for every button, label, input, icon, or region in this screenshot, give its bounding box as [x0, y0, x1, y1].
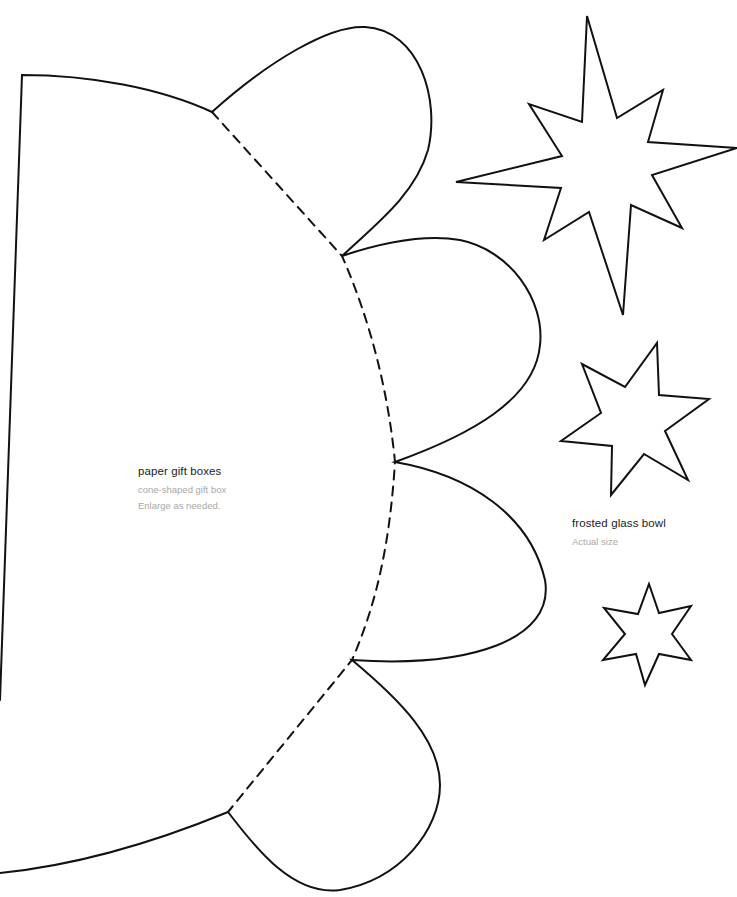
gift-box-note: Enlarge as needed. — [138, 501, 226, 511]
gift-box-title: paper gift boxes — [138, 466, 226, 478]
template-artwork — [0, 0, 737, 897]
bowl-title: frosted glass bowl — [572, 518, 666, 530]
bowl-subtitle: Actual size — [572, 537, 666, 547]
fold-line-dashed — [212, 112, 395, 812]
gift-box-subtitle: cone-shaped gift box — [138, 485, 226, 495]
large-star-shape — [456, 16, 737, 315]
cone-template-outline — [0, 27, 546, 891]
cone-gift-box-caption: paper gift boxes cone-shaped gift box En… — [138, 466, 226, 511]
medium-star-shape — [561, 343, 709, 495]
star-cutouts-caption: frosted glass bowl Actual size — [572, 518, 666, 546]
small-star-shape — [603, 584, 691, 685]
